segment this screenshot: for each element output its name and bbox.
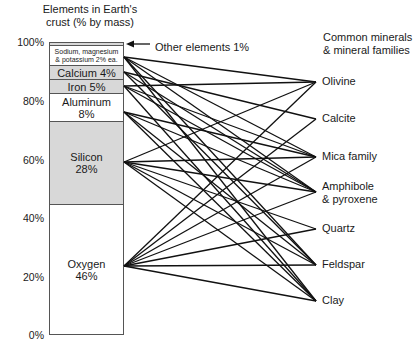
other-elements-callout: Other elements 1% [155, 41, 249, 53]
mineral-label: Amphibole [322, 180, 378, 193]
mineral-feldspar: Feldspar [322, 258, 365, 271]
mineral-label: Olivine [322, 75, 356, 88]
mineral-amphibole-pyroxene: Amphibole & pyroxene [322, 180, 378, 206]
mineral-label: & pyroxene [322, 193, 378, 206]
mineral-mica: Mica family [322, 150, 377, 163]
mineral-label: Calcite [322, 112, 356, 125]
mineral-quartz: Quartz [322, 222, 355, 235]
arrow-head-icon [126, 41, 134, 48]
mineral-label: Mica family [322, 150, 377, 163]
mineral-olivine: Olivine [322, 75, 356, 88]
connection-lines [0, 0, 418, 358]
mineral-label: Quartz [322, 222, 355, 235]
mineral-clay: Clay [322, 294, 344, 307]
mineral-calcite: Calcite [322, 112, 356, 125]
mineral-label: Feldspar [322, 258, 365, 271]
mineral-label: Clay [322, 294, 344, 307]
